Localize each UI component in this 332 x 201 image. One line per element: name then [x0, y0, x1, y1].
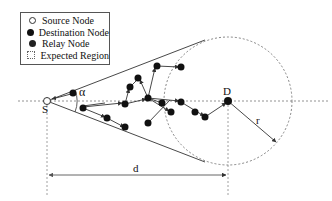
legend-item-destination: Destination Node — [25, 27, 109, 39]
legend-label: Destination Node — [39, 27, 109, 38]
relay-node — [178, 64, 185, 71]
legend-label: Expected Region — [40, 50, 109, 61]
relay-node — [80, 105, 87, 112]
legend-item-source: Source Node — [25, 15, 109, 27]
relay-node — [202, 114, 209, 121]
relay-node — [192, 109, 199, 116]
legend-item-region: Expected Region — [25, 50, 109, 62]
relay-node — [145, 95, 152, 102]
filled-circle-icon — [29, 40, 36, 47]
relay-node — [159, 100, 166, 107]
relay-nodes — [70, 63, 209, 131]
dotted-square-icon — [27, 51, 35, 59]
relay-node — [168, 109, 175, 116]
legend-item-relay: Relay Node — [25, 38, 109, 50]
relay-node — [145, 120, 152, 127]
radius-label: r — [256, 115, 260, 126]
lower-tangent-line — [47, 101, 205, 162]
legend: Source Node Destination Node Relay Node … — [20, 12, 110, 65]
relay-node — [127, 84, 134, 91]
relay-node — [122, 124, 129, 131]
relay-node — [104, 115, 111, 122]
hollow-circle-icon — [29, 17, 36, 24]
source-label: S — [42, 104, 48, 115]
relay-node — [70, 90, 77, 97]
legend-label: Source Node — [42, 15, 94, 26]
filled-circle-icon — [27, 29, 34, 36]
relay-node — [154, 63, 161, 70]
legend-label: Relay Node — [42, 38, 90, 49]
relay-node — [135, 75, 142, 82]
destination-label: D — [223, 86, 231, 97]
relay-node — [178, 99, 185, 106]
relay-node — [122, 101, 129, 108]
destination-node — [224, 97, 232, 105]
radius-line — [228, 101, 276, 142]
distance-label: d — [133, 163, 139, 174]
angle-label: α — [79, 86, 85, 98]
